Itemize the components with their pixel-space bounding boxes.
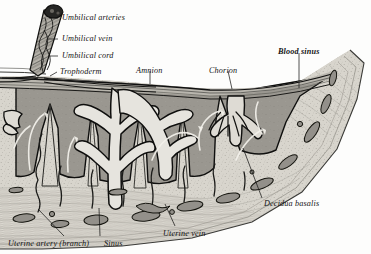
- placenta-diagram: [0, 0, 371, 254]
- label-amnion: Amnion: [136, 67, 162, 75]
- label-decidua-basalis: Decidua basalis: [264, 200, 319, 208]
- label-uterine-artery: Uterine artery (branch): [8, 240, 89, 248]
- label-sinus: Sinus: [104, 240, 123, 248]
- label-umbilical-cord: Umbilical cord: [62, 52, 114, 60]
- leader-trophoderm: [50, 72, 57, 76]
- label-umbilical-arteries: Umbilical arteries: [62, 14, 125, 22]
- label-chorion: Chorion: [209, 67, 237, 75]
- label-uterine-vein: Uterine vein: [163, 230, 206, 238]
- anatomical-figure: Umbilical arteriesUmbilical veinUmbilica…: [0, 0, 371, 254]
- label-umbilical-vein: Umbilical vein: [62, 35, 113, 43]
- label-blood-sinus: Blood sinus: [278, 48, 319, 56]
- label-trophoderm: Trophoderm: [60, 68, 102, 76]
